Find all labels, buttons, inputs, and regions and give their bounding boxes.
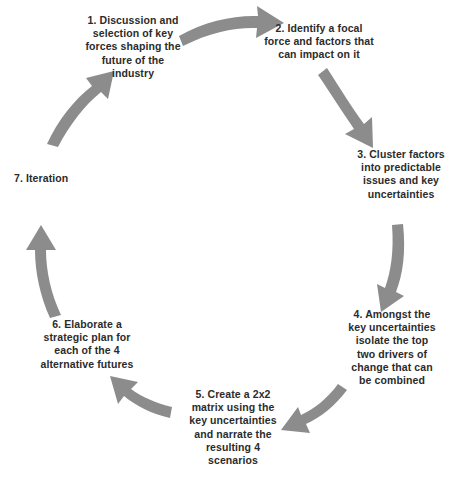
cycle-step-5-label: 5. Create a 2x2 matrix using the key unc… [178, 388, 288, 467]
cycle-step-6-label: 6. Elaborate a strategic plan for each o… [24, 318, 150, 371]
cycle-step-3-label: 3. Cluster factors into predictable issu… [348, 148, 454, 201]
arrow-step6-to-step7 [26, 225, 61, 318]
arrow-step3-to-step4 [377, 224, 404, 312]
scenario-planning-cycle-diagram: 1. Discussion and selection of key force… [0, 0, 459, 480]
arrow-step7-to-step1 [47, 71, 114, 147]
cycle-step-7-label: 7. Iteration [14, 172, 102, 185]
arrow-step5-to-step6 [110, 376, 172, 418]
cycle-step-1-label: 1. Discussion and selection of key force… [74, 14, 192, 80]
arrow-step4-to-step5 [281, 384, 347, 433]
cycle-step-4-label: 4. Amongst the key uncertainties isolate… [336, 308, 448, 387]
cycle-step-2-label: 2. Identify a focal force and factors th… [258, 22, 380, 62]
arrow-step2-to-step3 [318, 68, 373, 148]
